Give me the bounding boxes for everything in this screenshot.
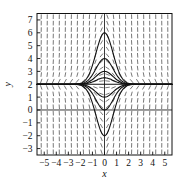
slope-field-figure: −5−4−3−2−1012345−3−2−101234567 x y: [0, 0, 184, 187]
y-tick-label: 1: [28, 93, 33, 103]
x-tick-label: −1: [87, 158, 97, 168]
y-tick-label: 5: [28, 41, 33, 51]
x-axis-label: x: [101, 168, 107, 179]
x-tick-label: 1: [114, 158, 119, 168]
y-tick-label: 6: [28, 28, 33, 38]
x-tick-label: −5: [39, 158, 49, 168]
x-tick-label: −4: [51, 158, 61, 168]
y-tick-label: 7: [28, 15, 33, 25]
y-tick-label: 3: [28, 67, 33, 77]
x-tick-label: 2: [126, 158, 131, 168]
x-tick-label: 0: [102, 158, 107, 168]
x-tick-label: 5: [162, 158, 167, 168]
x-tick-label: −3: [63, 158, 73, 168]
x-tick-label: 3: [138, 158, 143, 168]
y-tick-label: −3: [22, 144, 32, 154]
y-tick-label: −2: [22, 131, 32, 141]
y-tick-label: 0: [28, 105, 33, 115]
y-axis-label: y: [2, 82, 13, 88]
y-tick-label: −1: [22, 118, 32, 128]
x-tick-label: 4: [150, 158, 155, 168]
y-tick-label: 2: [28, 80, 33, 90]
y-tick-label: 4: [28, 54, 33, 64]
direction-field-plot: −5−4−3−2−1012345−3−2−101234567 x y: [0, 0, 184, 187]
x-tick-label: −2: [75, 158, 85, 168]
